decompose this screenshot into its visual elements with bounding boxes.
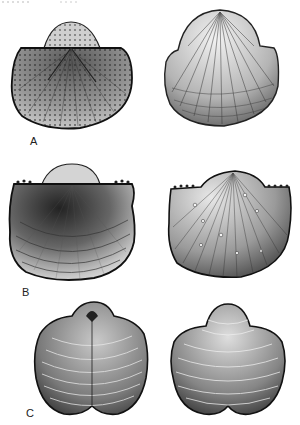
- specimen-b-left: [4, 162, 138, 287]
- brachiopod-plate: A: [0, 0, 300, 425]
- specimen-c-left: [32, 300, 150, 420]
- label-a: A: [30, 135, 37, 147]
- label-b: B: [22, 286, 29, 298]
- label-c: C: [26, 407, 34, 419]
- specimen-a-right: [158, 6, 282, 131]
- specimen-c-right: [168, 302, 288, 420]
- specimen-a-left: [8, 18, 134, 133]
- specimen-b-right: [165, 167, 295, 285]
